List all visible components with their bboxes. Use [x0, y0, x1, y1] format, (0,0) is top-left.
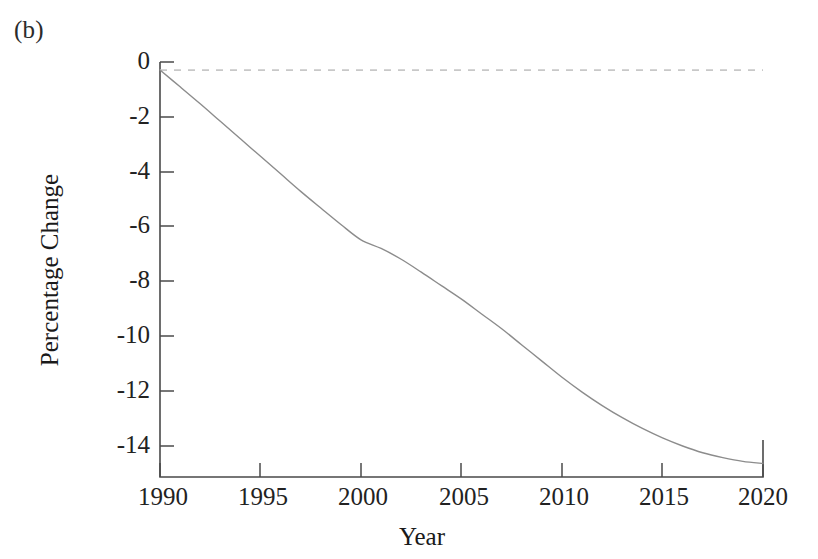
chart-figure: (b) 0 -2 -4 -6 -8 -10 -12 -14 — [0, 0, 818, 559]
y-tick-label-minus8: -8 — [129, 266, 150, 293]
y-tick-label-minus2: -2 — [129, 102, 150, 129]
x-axis-tick-labels: 1990 1995 2000 2005 2010 2015 2020 — [138, 483, 788, 510]
x-axis-ticks — [160, 463, 763, 477]
y-axis-title: Percentage Change — [36, 174, 63, 366]
x-tick-label-2015: 2015 — [639, 483, 689, 510]
x-tick-label-2010: 2010 — [539, 483, 589, 510]
y-tick-label-0: 0 — [138, 47, 151, 74]
y-tick-label-minus14: -14 — [117, 431, 151, 458]
x-tick-label-1990: 1990 — [138, 483, 188, 510]
x-tick-label-1995: 1995 — [238, 483, 288, 510]
x-axis-title: Year — [399, 523, 446, 550]
y-tick-label-minus12: -12 — [117, 376, 150, 403]
x-tick-label-2000: 2000 — [338, 483, 388, 510]
axis-spines — [160, 62, 763, 477]
x-tick-label-2005: 2005 — [439, 483, 489, 510]
y-axis-ticks — [160, 62, 174, 446]
line-chart: 0 -2 -4 -6 -8 -10 -12 -14 1990 1995 2000… — [0, 0, 818, 559]
y-tick-label-minus4: -4 — [129, 157, 150, 184]
x-tick-label-2020: 2020 — [738, 483, 788, 510]
y-tick-label-minus6: -6 — [129, 211, 150, 238]
y-tick-label-minus10: -10 — [117, 321, 150, 348]
data-series-line — [160, 70, 763, 463]
y-axis-tick-labels: 0 -2 -4 -6 -8 -10 -12 -14 — [117, 47, 151, 458]
